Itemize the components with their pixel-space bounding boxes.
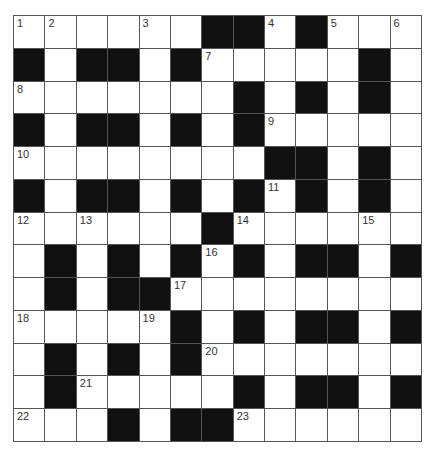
crossword-cell[interactable] bbox=[359, 16, 389, 48]
crossword-cell[interactable]: 1 bbox=[14, 16, 44, 48]
crossword-cell[interactable] bbox=[391, 278, 421, 310]
crossword-cell[interactable] bbox=[171, 82, 201, 114]
crossword-cell[interactable] bbox=[391, 147, 421, 179]
crossword-cell[interactable] bbox=[77, 311, 107, 343]
crossword-cell[interactable] bbox=[359, 114, 389, 146]
crossword-cell[interactable]: 19 bbox=[140, 311, 170, 343]
crossword-cell[interactable]: 16 bbox=[202, 245, 232, 277]
crossword-cell[interactable] bbox=[391, 82, 421, 114]
crossword-cell[interactable] bbox=[391, 180, 421, 212]
crossword-cell[interactable] bbox=[202, 147, 232, 179]
crossword-cell[interactable]: 12 bbox=[14, 213, 44, 245]
crossword-cell[interactable] bbox=[140, 245, 170, 277]
crossword-cell[interactable] bbox=[14, 344, 44, 376]
crossword-cell[interactable]: 14 bbox=[234, 213, 264, 245]
crossword-cell[interactable]: 5 bbox=[328, 16, 358, 48]
crossword-cell[interactable] bbox=[296, 278, 326, 310]
crossword-cell[interactable] bbox=[140, 213, 170, 245]
crossword-cell[interactable] bbox=[171, 213, 201, 245]
crossword-cell[interactable] bbox=[14, 278, 44, 310]
crossword-cell[interactable] bbox=[328, 213, 358, 245]
crossword-cell[interactable] bbox=[45, 82, 75, 114]
crossword-cell[interactable] bbox=[45, 147, 75, 179]
crossword-cell[interactable] bbox=[296, 49, 326, 81]
crossword-cell[interactable] bbox=[265, 213, 295, 245]
crossword-cell[interactable] bbox=[77, 278, 107, 310]
crossword-cell[interactable] bbox=[328, 114, 358, 146]
crossword-cell[interactable] bbox=[140, 344, 170, 376]
crossword-cell[interactable]: 7 bbox=[202, 49, 232, 81]
crossword-cell[interactable] bbox=[234, 278, 264, 310]
crossword-cell[interactable] bbox=[45, 213, 75, 245]
crossword-cell[interactable] bbox=[296, 344, 326, 376]
crossword-cell[interactable]: 22 bbox=[14, 409, 44, 441]
crossword-cell[interactable]: 6 bbox=[391, 16, 421, 48]
crossword-cell[interactable] bbox=[391, 213, 421, 245]
crossword-cell[interactable]: 9 bbox=[265, 114, 295, 146]
crossword-cell[interactable]: 11 bbox=[265, 180, 295, 212]
crossword-cell[interactable] bbox=[359, 409, 389, 441]
crossword-cell[interactable] bbox=[171, 376, 201, 408]
crossword-cell[interactable] bbox=[391, 114, 421, 146]
crossword-cell[interactable] bbox=[234, 49, 264, 81]
crossword-cell[interactable] bbox=[359, 278, 389, 310]
crossword-cell[interactable] bbox=[359, 376, 389, 408]
crossword-cell[interactable] bbox=[296, 114, 326, 146]
crossword-cell[interactable] bbox=[234, 147, 264, 179]
crossword-cell[interactable] bbox=[77, 344, 107, 376]
crossword-cell[interactable] bbox=[202, 311, 232, 343]
crossword-cell[interactable] bbox=[328, 147, 358, 179]
crossword-cell[interactable]: 17 bbox=[171, 278, 201, 310]
crossword-cell[interactable] bbox=[328, 180, 358, 212]
crossword-cell[interactable] bbox=[77, 82, 107, 114]
crossword-cell[interactable] bbox=[171, 147, 201, 179]
crossword-cell[interactable] bbox=[171, 16, 201, 48]
crossword-cell[interactable]: 18 bbox=[14, 311, 44, 343]
crossword-cell[interactable] bbox=[265, 409, 295, 441]
crossword-cell[interactable] bbox=[77, 409, 107, 441]
crossword-cell[interactable] bbox=[265, 245, 295, 277]
crossword-cell[interactable] bbox=[77, 245, 107, 277]
crossword-cell[interactable] bbox=[45, 114, 75, 146]
crossword-cell[interactable] bbox=[140, 409, 170, 441]
crossword-cell[interactable]: 23 bbox=[234, 409, 264, 441]
crossword-cell[interactable] bbox=[328, 82, 358, 114]
crossword-cell[interactable] bbox=[391, 409, 421, 441]
crossword-cell[interactable] bbox=[296, 409, 326, 441]
crossword-cell[interactable] bbox=[391, 49, 421, 81]
crossword-cell[interactable] bbox=[265, 344, 295, 376]
crossword-cell[interactable]: 4 bbox=[265, 16, 295, 48]
crossword-cell[interactable] bbox=[265, 376, 295, 408]
crossword-cell[interactable] bbox=[202, 114, 232, 146]
crossword-cell[interactable] bbox=[359, 311, 389, 343]
crossword-cell[interactable]: 20 bbox=[202, 344, 232, 376]
crossword-cell[interactable] bbox=[234, 344, 264, 376]
crossword-cell[interactable] bbox=[45, 180, 75, 212]
crossword-cell[interactable] bbox=[108, 311, 138, 343]
crossword-cell[interactable] bbox=[108, 82, 138, 114]
crossword-cell[interactable] bbox=[359, 245, 389, 277]
crossword-cell[interactable] bbox=[359, 344, 389, 376]
crossword-cell[interactable]: 2 bbox=[45, 16, 75, 48]
crossword-cell[interactable] bbox=[265, 82, 295, 114]
crossword-cell[interactable] bbox=[296, 213, 326, 245]
crossword-cell[interactable] bbox=[265, 311, 295, 343]
crossword-cell[interactable] bbox=[202, 180, 232, 212]
crossword-cell[interactable]: 3 bbox=[140, 16, 170, 48]
crossword-cell[interactable]: 15 bbox=[359, 213, 389, 245]
crossword-cell[interactable]: 8 bbox=[14, 82, 44, 114]
crossword-cell[interactable]: 10 bbox=[14, 147, 44, 179]
crossword-cell[interactable] bbox=[140, 180, 170, 212]
crossword-cell[interactable] bbox=[108, 376, 138, 408]
crossword-cell[interactable] bbox=[328, 344, 358, 376]
crossword-cell[interactable] bbox=[328, 49, 358, 81]
crossword-cell[interactable] bbox=[328, 409, 358, 441]
crossword-cell[interactable] bbox=[265, 49, 295, 81]
crossword-cell[interactable] bbox=[108, 147, 138, 179]
crossword-cell[interactable] bbox=[140, 49, 170, 81]
crossword-cell[interactable] bbox=[202, 376, 232, 408]
crossword-cell[interactable] bbox=[108, 213, 138, 245]
crossword-cell[interactable] bbox=[265, 278, 295, 310]
crossword-cell[interactable] bbox=[14, 376, 44, 408]
crossword-cell[interactable] bbox=[45, 409, 75, 441]
